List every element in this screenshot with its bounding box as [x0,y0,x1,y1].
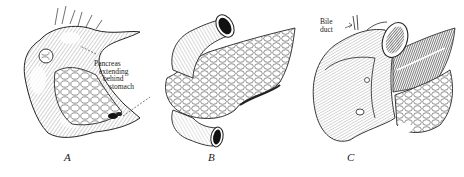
bile-duct [353,15,358,30]
panel-c: Bile duct C [305,0,464,177]
pancreas-illustration-b [155,0,305,177]
annotation-line: duct [320,26,333,34]
panel-label-b: B [208,151,215,163]
panel-a: Pancreas extending behind stomach A [0,0,155,177]
bile-duct-annotation: Bile duct [320,18,333,33]
annotation-line: stomach [94,83,134,91]
pancreas-annotation: Pancreas extending behind stomach [94,60,134,90]
panel-b: B [155,0,305,177]
panel-label-c: C [347,151,354,163]
panel-label-a: A [64,151,71,163]
